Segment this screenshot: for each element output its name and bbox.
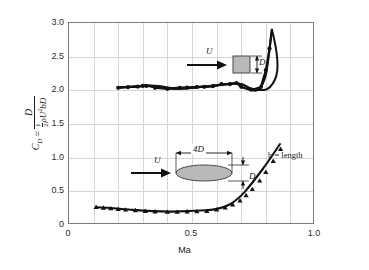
ellipse-inset-width-label: 4D: [191, 144, 206, 154]
d-arrow-top: [241, 161, 245, 166]
b-length-note: b = length: [268, 150, 303, 160]
y-axis-title: CD = D 1 2 ρU2bD: [2, 78, 72, 168]
cd-symbol: CD: [30, 139, 44, 151]
x-tick-label: 1.0: [299, 228, 329, 238]
ellipse-body: [176, 165, 232, 181]
d-arrow-bottom: [241, 181, 245, 186]
one-half-denominator: 2: [43, 123, 50, 127]
equals-sign: =: [32, 131, 43, 137]
x-tick-label: 0: [53, 228, 83, 238]
square-body: [233, 56, 250, 73]
width-arrow-right: [227, 151, 232, 155]
one-half-fraction: 1 2: [35, 123, 50, 127]
square-inset-u-label: U: [206, 46, 213, 56]
cd-denominator-terms: ρU2bD: [37, 98, 48, 123]
width-arrow-left: [176, 151, 181, 155]
flow-arrow-head: [217, 61, 227, 70]
flow-arrow-head: [161, 169, 171, 178]
cd-numerator: D: [24, 106, 35, 119]
one-half-numerator: 1: [35, 123, 42, 127]
b-length-text: b = length: [268, 150, 303, 160]
y-tick-label: 2.5: [34, 52, 64, 61]
ellipse-inset-d-label: D: [249, 171, 256, 181]
x-tick-label: 0.5: [176, 228, 206, 238]
d-arrow-bottom: [255, 69, 259, 74]
ellipse-inset-u-label: U: [154, 155, 161, 165]
drag-coefficient-chart: U D U 4D D 3.0 2.5: [0, 0, 369, 270]
x-axis-title: Ma: [0, 245, 369, 255]
square-inset-d-label: D: [259, 57, 266, 67]
x-axis-title-text: Ma: [178, 245, 191, 255]
y-tick-label: 3.0: [34, 18, 64, 27]
plot-area: U D U 4D D: [68, 22, 314, 224]
cd-fraction: D 1 2 ρU2bD: [24, 96, 51, 129]
cd-denominator: 1 2 ρU2bD: [35, 96, 50, 129]
y-tick-label: 0.5: [34, 186, 64, 195]
